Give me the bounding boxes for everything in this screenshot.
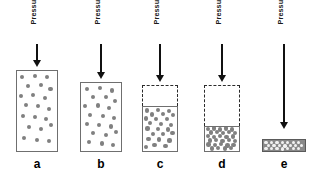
pressure-label-c: Pressure xyxy=(153,0,160,24)
gas-particle xyxy=(216,146,220,150)
stage-letter-a: a xyxy=(34,158,41,170)
gas-particle xyxy=(27,125,31,129)
gas-particle xyxy=(19,94,23,98)
gas-particle xyxy=(85,122,89,126)
compression-stage-e: Pressuree xyxy=(224,0,321,179)
gas-particle xyxy=(91,95,95,99)
gas-particle xyxy=(31,93,35,97)
gas-particle xyxy=(297,147,300,150)
gas-compression-diagram: PressureaPressurebPressurecPressuredPres… xyxy=(0,0,321,179)
gas-particle xyxy=(281,147,284,150)
pressure-label-e: Pressure xyxy=(277,0,284,24)
arrow-head-down-icon-a xyxy=(33,60,41,67)
gas-particle xyxy=(33,115,37,119)
stage-letter-e: e xyxy=(281,158,288,170)
gas-particle xyxy=(88,113,92,117)
arrow-head-down-icon-e xyxy=(280,122,288,129)
gas-particle xyxy=(20,75,24,79)
gas-particle xyxy=(87,140,91,144)
gas-particle xyxy=(26,84,30,88)
gas-particle xyxy=(22,136,26,140)
gas-particle xyxy=(152,143,156,147)
gas-particle xyxy=(286,147,289,150)
gas-particle xyxy=(150,112,154,116)
gas-particle xyxy=(36,104,40,108)
arrow-shaft-e xyxy=(283,44,285,122)
gas-particle xyxy=(292,147,295,150)
arrow-shaft-d xyxy=(221,44,223,75)
gas-particle xyxy=(154,117,158,121)
arrow-shaft-c xyxy=(159,44,161,75)
gas-particle xyxy=(146,137,150,141)
gas-particle xyxy=(35,138,39,142)
gas-particle xyxy=(270,147,273,150)
gas-particle xyxy=(33,74,37,78)
gas-particle xyxy=(144,145,148,149)
gas-particle xyxy=(145,108,149,112)
gas-particle xyxy=(210,146,214,150)
gas-volume-e xyxy=(262,139,306,152)
gas-particle xyxy=(24,103,28,107)
arrow-shaft-a xyxy=(36,44,38,60)
gas-particle xyxy=(214,138,218,142)
gas-particle xyxy=(83,104,87,108)
gas-particle xyxy=(218,134,222,138)
gas-particle xyxy=(275,147,278,150)
gas-particle xyxy=(145,126,149,130)
gas-particle xyxy=(156,108,160,112)
gas-particle xyxy=(264,147,267,150)
gas-particle xyxy=(156,127,160,131)
pressure-label-a: Pressure xyxy=(30,0,37,24)
gas-particle xyxy=(144,116,148,120)
pressure-label-d: Pressure xyxy=(215,0,222,24)
gas-particle xyxy=(91,131,95,135)
gas-particle xyxy=(148,121,152,125)
gas-particle xyxy=(21,114,25,118)
gas-particle xyxy=(157,137,161,141)
gas-particle xyxy=(151,132,155,136)
gas-particle xyxy=(85,87,89,91)
gas-container-e xyxy=(262,139,306,152)
gas-particle xyxy=(300,144,303,147)
